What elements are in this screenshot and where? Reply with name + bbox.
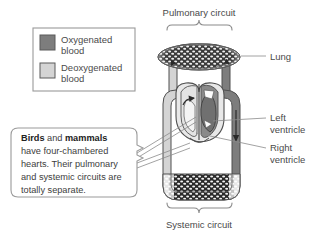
left-ventricle-label-line2: ventricle <box>270 124 305 135</box>
callout-line-2: have four-chambered <box>21 146 108 156</box>
right-ventricle-label-line2: ventricle <box>270 154 305 165</box>
legend-swatch-deoxygenated <box>40 63 55 78</box>
lung-capillary-bed <box>158 44 240 70</box>
lung-label: Lung <box>270 51 291 62</box>
legend-label-oxygenated-line1: Oxygenated <box>61 34 112 45</box>
systemic-circuit-brace <box>167 203 232 213</box>
left-ventricle-label-line1: Left <box>270 112 286 123</box>
legend-label-oxygenated-line2: blood <box>61 45 84 56</box>
legend-label-deoxygenated-line1: Deoxygenated <box>61 62 122 73</box>
circulatory-system-diagram: Pulmonary circuit <box>0 0 323 238</box>
legend-label-deoxygenated-line2: blood <box>61 73 84 84</box>
pulmonary-circuit-brace <box>167 20 232 30</box>
callout-mid-and: and <box>45 133 65 143</box>
callout-bold-birds: Birds <box>21 133 45 143</box>
legend: Oxygenated blood Deoxygenated blood <box>33 28 135 91</box>
callout-line-1: Birds and mammals <box>21 133 107 143</box>
callout-bold-mammals: mammals <box>65 133 107 143</box>
callout-line-5: totally separate. <box>21 185 86 195</box>
right-ventricle-label-line1: Right <box>270 142 293 153</box>
pulmonary-circuit-label: Pulmonary circuit <box>163 7 236 18</box>
callout-line-4: and systemic circuits are <box>21 172 122 182</box>
systemic-capillary-bed <box>160 170 243 204</box>
systemic-circuit-label: Systemic circuit <box>166 219 232 230</box>
callout-line-3: hearts. Their pulmonary <box>21 159 118 169</box>
figure-canvas: Pulmonary circuit <box>0 0 323 238</box>
legend-swatch-oxygenated <box>40 35 55 50</box>
